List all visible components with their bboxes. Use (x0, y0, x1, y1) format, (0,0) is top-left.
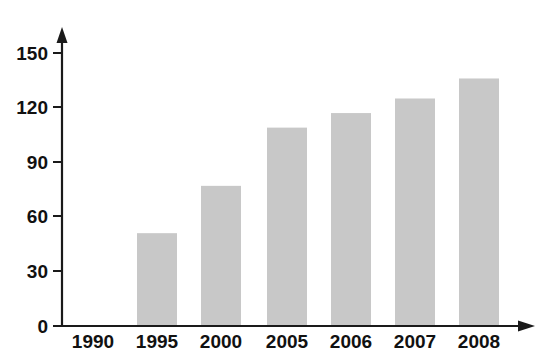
bar-2006 (395, 99, 435, 327)
y-tick-label-0: 0 (37, 316, 48, 337)
bar-2007 (459, 78, 499, 326)
y-tick-label-120: 120 (16, 97, 48, 118)
chart-canvas: 150 120 90 60 30 0 1990 1995 2000 2005 2… (0, 0, 545, 359)
bar-chart: 150 120 90 60 30 0 1990 1995 2000 2005 2… (0, 0, 545, 359)
bar-1995 (201, 186, 241, 326)
x-tick-label-2006: 2006 (330, 331, 372, 352)
x-tick-label-2000: 2000 (200, 331, 242, 352)
x-tick-label-1995: 1995 (136, 331, 179, 352)
y-tick-label-150: 150 (16, 43, 48, 64)
y-tick-label-60: 60 (27, 206, 48, 227)
y-tick-labels: 150 120 90 60 30 0 (16, 43, 48, 337)
x-tick-label-2005: 2005 (266, 331, 309, 352)
x-tick-label-2008: 2008 (458, 331, 500, 352)
x-axis: 1990 1995 2000 2005 2006 2007 2008 (55, 321, 535, 353)
y-tick-label-30: 30 (27, 261, 48, 282)
bars-group (137, 78, 499, 326)
y-axis: 150 120 90 60 30 0 (16, 27, 67, 337)
x-axis-arrow-icon (518, 321, 535, 332)
x-tick-label-1990: 1990 (72, 331, 114, 352)
bar-1990 (137, 233, 177, 326)
y-tick-marks (53, 53, 62, 326)
y-tick-label-90: 90 (27, 152, 48, 173)
bar-2000 (267, 128, 307, 326)
bar-2005 (331, 113, 371, 326)
x-tick-label-2007: 2007 (394, 331, 436, 352)
x-tick-labels: 1990 1995 2000 2005 2006 2007 2008 (72, 331, 500, 352)
y-axis-arrow-icon (57, 27, 68, 43)
